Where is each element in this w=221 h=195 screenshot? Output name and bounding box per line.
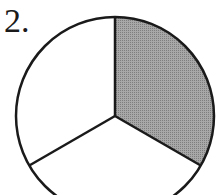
divider-lower-left <box>29 116 115 166</box>
fraction-circle-diagram <box>0 0 221 195</box>
